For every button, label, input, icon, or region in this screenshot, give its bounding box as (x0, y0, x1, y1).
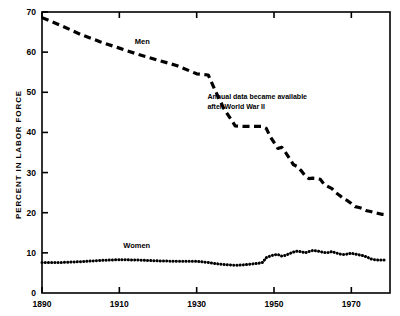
axis-ticks (42, 12, 351, 293)
y-tick-label: 50 (12, 87, 36, 97)
y-tick-label: 70 (12, 7, 36, 17)
x-tick-label: 1910 (99, 299, 139, 309)
y-tick-label: 0 (12, 288, 36, 298)
plot-border (42, 12, 390, 293)
annotation-line-2: after World War II (207, 102, 307, 112)
y-tick-label: 20 (12, 208, 36, 218)
y-tick-label: 30 (12, 168, 36, 178)
x-tick-label: 1930 (177, 299, 217, 309)
x-tick-label: 1890 (22, 299, 62, 309)
y-tick-label: 60 (12, 47, 36, 57)
y-tick-label: 40 (12, 127, 36, 137)
y-tick-label: 10 (12, 248, 36, 258)
plot-frame (42, 12, 390, 293)
series-path-women (42, 250, 386, 265)
x-tick-label: 1950 (254, 299, 294, 309)
x-tick-label: 1970 (331, 299, 371, 309)
chart-canvas (0, 0, 400, 316)
series-label-women: Women (123, 241, 150, 250)
annotation-world-war-ii: Annual data became available after World… (207, 92, 307, 112)
series-label-men: Men (135, 37, 150, 46)
data-series-group (42, 18, 386, 266)
series-path-men (42, 18, 386, 215)
labor-force-participation-chart: PERCENT IN LABOR FORCE 010203040506070 1… (0, 0, 400, 316)
annotation-line-1: Annual data became available (207, 92, 307, 102)
